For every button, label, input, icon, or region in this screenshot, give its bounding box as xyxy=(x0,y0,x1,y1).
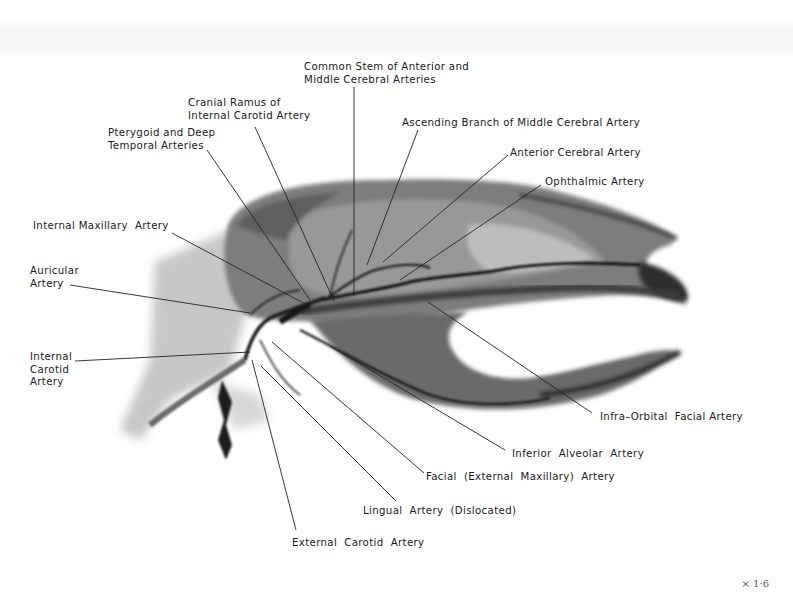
label-cranial-ramus: Cranial Ramus of Internal Carotid Artery xyxy=(188,97,310,122)
label-inferior-alveolar: Inferior Alveolar Artery xyxy=(512,448,644,461)
cranium xyxy=(224,179,686,326)
label-internal-carotid: Internal Carotid Artery xyxy=(30,351,72,389)
label-ascending-branch-mca: Ascending Branch of Middle Cerebral Arte… xyxy=(402,117,640,130)
label-lingual-dislocated: Lingual Artery (Dislocated) xyxy=(363,505,516,518)
magnification-label: × 1·6 xyxy=(742,578,769,589)
label-anterior-cerebral: Anterior Cerebral Artery xyxy=(510,147,641,160)
label-common-stem: Common Stem of Anterior and Middle Cereb… xyxy=(304,61,469,86)
label-ophthalmic: Ophthalmic Artery xyxy=(545,176,645,189)
label-internal-maxillary: Internal Maxillary Artery xyxy=(33,220,169,233)
label-pterygoid-deep-temporal: Pterygoid and Deep Temporal Arteries xyxy=(108,127,215,152)
label-external-carotid: External Carotid Artery xyxy=(292,537,424,550)
label-infra-orbital-facial: Infra–Orbital Facial Artery xyxy=(600,411,743,424)
mandible xyxy=(310,312,682,409)
label-auricular: Auricular Artery xyxy=(30,265,79,290)
leader-line-lingual-dislocated xyxy=(261,366,396,501)
label-facial-external-maxillary: Facial (External Maxillary) Artery xyxy=(426,471,615,484)
